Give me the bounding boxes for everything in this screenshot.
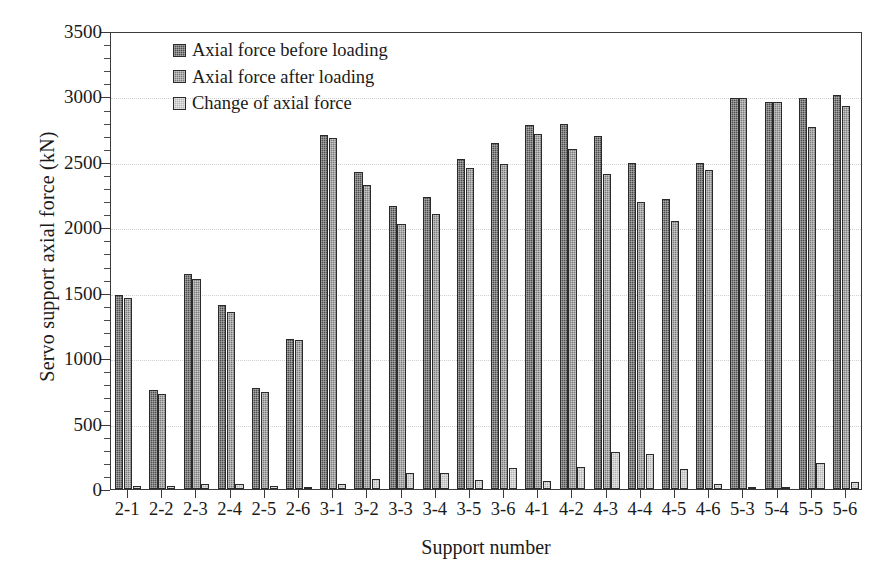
legend-label: Axial force after loading xyxy=(192,68,374,87)
x-tick-label: 3-6 xyxy=(491,499,516,520)
gridline xyxy=(111,229,861,230)
bar xyxy=(637,202,645,489)
legend-item: Axial force before loading xyxy=(173,41,388,60)
x-tick-mark xyxy=(742,490,743,498)
legend-item: Change of axial force xyxy=(173,94,388,113)
bar xyxy=(457,159,465,489)
x-tick-label: 2-3 xyxy=(183,499,208,520)
x-tick-mark xyxy=(537,490,538,498)
bar xyxy=(696,163,704,489)
bar xyxy=(739,98,747,489)
bar xyxy=(577,467,585,489)
bar xyxy=(671,221,679,489)
x-tick-label: 2-4 xyxy=(217,499,242,520)
bar xyxy=(714,484,722,489)
gridline xyxy=(111,164,861,165)
y-tick-label: 0 xyxy=(93,479,103,501)
bar xyxy=(466,168,474,489)
x-tick-label: 2-1 xyxy=(115,499,140,520)
x-tick-label: 2-5 xyxy=(251,499,276,520)
bar xyxy=(842,106,850,489)
y-tick-label: 1500 xyxy=(64,283,102,305)
y-tick-label: 3000 xyxy=(64,86,102,108)
x-tick-label: 5-6 xyxy=(833,499,858,520)
bar-chart: Servo support axial force (kN) Support n… xyxy=(0,0,888,579)
bar xyxy=(338,484,346,489)
bar xyxy=(611,452,619,489)
x-tick-mark xyxy=(366,490,367,498)
bar xyxy=(124,298,132,489)
bar xyxy=(261,392,269,489)
bar xyxy=(192,279,200,489)
bar xyxy=(440,473,448,489)
x-tick-mark xyxy=(435,490,436,498)
bar xyxy=(646,454,654,489)
legend-swatch-icon xyxy=(173,44,186,57)
bar xyxy=(851,482,859,489)
x-tick-mark xyxy=(811,490,812,498)
x-tick-mark xyxy=(264,490,265,498)
x-tick-label: 4-5 xyxy=(662,499,687,520)
bar xyxy=(397,224,405,489)
bar xyxy=(295,340,303,489)
bar xyxy=(432,214,440,489)
bar xyxy=(534,134,542,489)
y-tick-label: 2000 xyxy=(64,217,102,239)
x-tick-mark xyxy=(708,490,709,498)
x-tick-label: 4-4 xyxy=(627,499,652,520)
bar xyxy=(662,199,670,490)
y-tick-label: 1000 xyxy=(64,348,102,370)
y-axis-ticks: 0500100015002000250030003500 xyxy=(0,0,110,579)
y-tick-label: 3500 xyxy=(64,21,102,43)
x-tick-label: 5-5 xyxy=(798,499,823,520)
bar xyxy=(158,394,166,489)
x-tick-label: 2-2 xyxy=(149,499,174,520)
bar xyxy=(568,149,576,489)
bar xyxy=(500,164,508,489)
bar xyxy=(167,486,175,489)
x-axis-title: Support number xyxy=(110,536,862,559)
x-tick-mark xyxy=(640,490,641,498)
x-tick-mark xyxy=(195,490,196,498)
bar xyxy=(389,206,397,489)
bar xyxy=(218,305,226,489)
bar xyxy=(329,138,337,489)
x-tick-mark xyxy=(469,490,470,498)
bar xyxy=(748,487,756,489)
gridline xyxy=(111,295,861,296)
y-tick-label: 500 xyxy=(74,414,103,436)
legend-item: Axial force after loading xyxy=(173,68,388,87)
legend-label: Change of axial force xyxy=(192,94,352,113)
bar xyxy=(603,174,611,489)
bar xyxy=(133,486,141,489)
bar xyxy=(680,469,688,489)
bar xyxy=(354,172,362,489)
bar xyxy=(184,274,192,489)
bar xyxy=(270,486,278,489)
bar xyxy=(320,135,328,489)
bar xyxy=(765,102,773,489)
bar xyxy=(560,124,568,489)
x-tick-mark xyxy=(332,490,333,498)
bar xyxy=(525,125,533,489)
bar xyxy=(227,312,235,489)
bar xyxy=(115,295,123,489)
legend-swatch-icon xyxy=(173,70,186,83)
bar xyxy=(808,127,816,489)
bar xyxy=(628,163,636,489)
bar xyxy=(252,388,260,489)
bar xyxy=(286,339,294,489)
x-tick-mark xyxy=(845,490,846,498)
bar xyxy=(475,480,483,489)
legend-label: Axial force before loading xyxy=(192,41,388,60)
x-tick-label: 2-6 xyxy=(286,499,311,520)
legend: Axial force before loading Axial force a… xyxy=(173,41,388,113)
x-tick-label: 3-2 xyxy=(354,499,379,520)
bar xyxy=(730,98,738,489)
x-tick-label: 5-3 xyxy=(730,499,755,520)
bar xyxy=(594,136,602,489)
bar xyxy=(304,487,312,489)
bar xyxy=(773,102,781,489)
plot-area: Axial force before loading Axial force a… xyxy=(110,32,862,490)
bar xyxy=(705,170,713,489)
